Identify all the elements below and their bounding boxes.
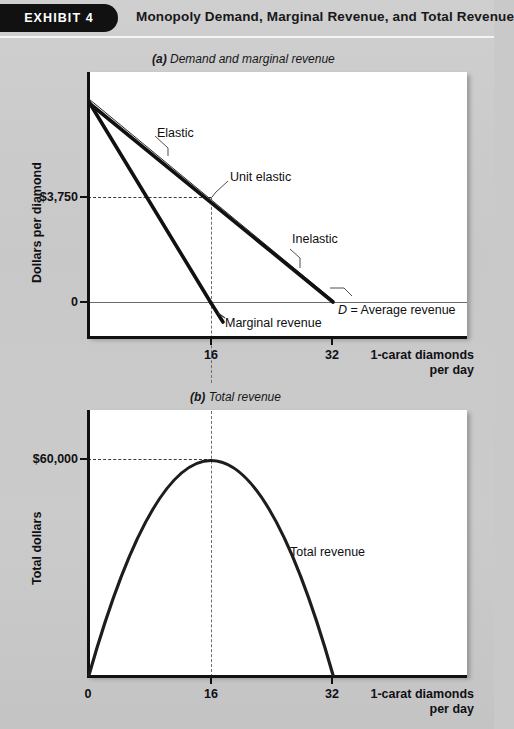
- label-total-revenue: Total revenue: [290, 545, 365, 559]
- total-revenue-curve: [89, 461, 333, 676]
